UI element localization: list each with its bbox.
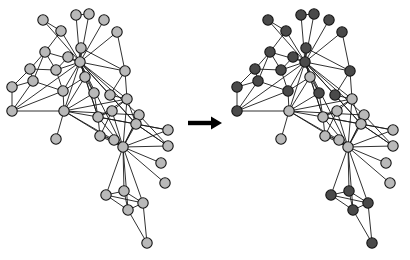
arrow-shaft [188,121,214,125]
graph-node[interactable] [89,88,99,98]
graph-node[interactable] [122,94,132,104]
graph-node[interactable] [160,178,170,188]
graph-node[interactable] [156,158,166,168]
graph-node[interactable] [326,190,336,200]
graph-node[interactable] [265,47,275,57]
graph-edge [123,146,168,147]
graph-node[interactable] [344,186,354,196]
graph-node[interactable] [163,141,173,151]
graph-node[interactable] [112,27,122,37]
graph-node[interactable] [120,66,130,76]
graph-node[interactable] [318,112,328,122]
graph-edge [301,15,305,62]
graph-edge [123,147,161,163]
graph-edge [12,91,63,111]
graph-node[interactable] [28,76,38,86]
graph-node[interactable] [330,90,340,100]
graph-node[interactable] [320,131,330,141]
graph-node[interactable] [40,47,50,57]
graph-node[interactable] [343,142,353,152]
graph-edge [348,146,393,147]
graph-node[interactable] [84,9,94,19]
graph-node[interactable] [283,86,293,96]
graph-node[interactable] [95,131,105,141]
graph-node[interactable] [347,94,357,104]
graph-node[interactable] [356,119,366,129]
graph-node[interactable] [76,43,86,53]
graph-node[interactable] [385,178,395,188]
graph-node[interactable] [71,10,81,20]
graph-node[interactable] [101,190,111,200]
graph-node[interactable] [388,141,398,151]
graph-node[interactable] [232,82,242,92]
network-canvas [0,0,410,260]
graph-node[interactable] [59,106,69,116]
graph-node[interactable] [388,125,398,135]
graph-node[interactable] [58,86,68,96]
graph-node[interactable] [109,135,119,145]
graph-node[interactable] [51,134,61,144]
graph-node[interactable] [276,134,286,144]
graph-node[interactable] [324,15,334,25]
graph-node[interactable] [381,158,391,168]
graph-node[interactable] [7,82,17,92]
graph-node[interactable] [25,64,35,74]
graph-edge [76,15,80,62]
graph-node[interactable] [263,15,273,25]
graph-node[interactable] [63,52,73,62]
graph-node[interactable] [363,198,373,208]
graph-node[interactable] [337,27,347,37]
graph-node[interactable] [232,106,242,116]
graph-node[interactable] [250,64,260,74]
graph-node[interactable] [288,52,298,62]
graph-node[interactable] [163,125,173,135]
graph-node[interactable] [105,90,115,100]
graph-node[interactable] [99,15,109,25]
graph-node[interactable] [334,135,344,145]
graph-node[interactable] [284,106,294,116]
graph-node[interactable] [305,72,315,82]
graph-node[interactable] [123,205,133,215]
graph-node[interactable] [75,57,85,67]
left-graph-panel [7,9,173,248]
graph-node[interactable] [345,66,355,76]
graph-node[interactable] [281,26,291,36]
graph-node[interactable] [301,43,311,53]
graph-node[interactable] [131,119,141,129]
graph-node[interactable] [300,57,310,67]
graph-node[interactable] [56,26,66,36]
graph-node[interactable] [314,88,324,98]
graph-edge [348,147,386,163]
graph-node[interactable] [107,106,117,116]
graph-node[interactable] [332,106,342,116]
graph-node[interactable] [296,10,306,20]
graph-node[interactable] [51,65,61,75]
graph-node[interactable] [253,76,263,86]
graph-edge [117,32,125,71]
graph-node[interactable] [7,106,17,116]
arrow-head [211,117,222,130]
graph-node[interactable] [138,198,148,208]
graph-node[interactable] [93,112,103,122]
graph-node[interactable] [348,205,358,215]
graph-node[interactable] [142,238,152,248]
transform-arrow [188,117,222,130]
network-figure [0,0,410,260]
graph-edge [237,91,288,111]
graph-node[interactable] [367,238,377,248]
graph-node[interactable] [80,72,90,82]
right-graph-panel [232,9,398,248]
graph-node[interactable] [118,142,128,152]
graph-node[interactable] [119,186,129,196]
graph-node[interactable] [276,65,286,75]
graph-node[interactable] [309,9,319,19]
graph-node[interactable] [38,15,48,25]
graph-edge [342,32,350,71]
